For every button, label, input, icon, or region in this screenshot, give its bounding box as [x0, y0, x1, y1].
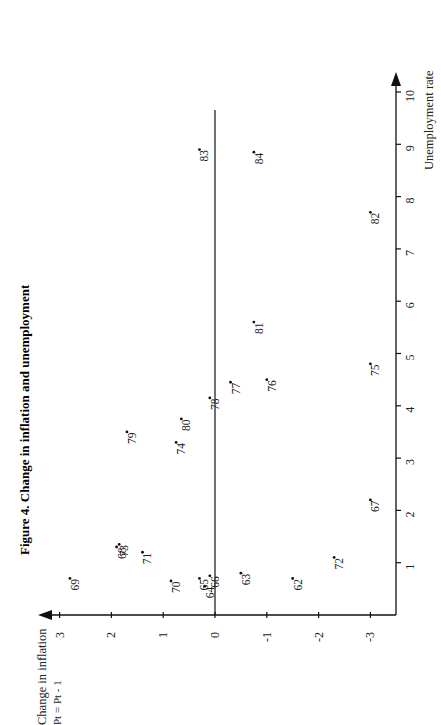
unemployment-tick-label: 5	[403, 355, 417, 361]
unemployment-tick-label: 4	[403, 407, 417, 413]
data-point: 77	[229, 381, 241, 394]
point-label: 67	[369, 500, 381, 512]
point-label: 69	[69, 579, 81, 591]
inflation-tick-label: 2	[104, 632, 118, 638]
point-label: 66	[209, 576, 221, 588]
data-point: 76	[265, 378, 277, 391]
point-label: 73	[118, 545, 130, 557]
point-label: 70	[170, 581, 182, 593]
point-label: 71	[141, 552, 153, 564]
data-point: 62	[291, 577, 303, 590]
point-label: 76	[266, 380, 278, 392]
data-point: 79	[126, 431, 138, 444]
point-label: 63	[240, 573, 252, 585]
point-label: 84	[253, 152, 265, 164]
data-point: 63	[240, 572, 252, 585]
data-point: 71	[141, 551, 153, 564]
point-label: 62	[292, 579, 304, 591]
data-point: 66	[208, 574, 220, 587]
unemployment-tick-label: 3	[403, 459, 417, 465]
data-point: 75	[369, 363, 381, 376]
inflation-tick-label: 3	[53, 632, 67, 638]
point-label: 74	[175, 443, 187, 455]
data-point: 83	[198, 148, 210, 161]
data-point: 67	[369, 499, 381, 512]
unemployment-ticks: 12345678910	[396, 90, 417, 570]
unemployment-tick-label: 7	[403, 250, 417, 256]
inflation-tick-label: -2	[312, 632, 326, 642]
unemployment-tick-label: 6	[403, 302, 417, 308]
unemployment-tick-label: 1	[403, 564, 417, 570]
data-points: 6263646566676869707172737475767778798081…	[69, 148, 382, 598]
y-axis-sublabel: Pt = Pt - 1	[51, 680, 63, 725]
data-point: 70	[170, 580, 182, 593]
unemployment-tick-label: 9	[403, 145, 417, 151]
y-axis-label: Change in inflation	[35, 628, 49, 725]
unemployment-tick-label: 10	[403, 90, 417, 102]
data-point: 78	[208, 397, 220, 410]
data-point: 73	[118, 543, 130, 556]
data-point: 84	[252, 151, 264, 164]
inflation-tick-label: 0	[208, 632, 222, 638]
inflation-tick-label: 1	[156, 632, 170, 638]
point-label: 81	[253, 322, 265, 334]
data-point: 81	[252, 321, 264, 334]
inflation-tick-label: -3	[363, 632, 377, 642]
unemployment-tick-label: 8	[403, 198, 417, 204]
data-point: 82	[369, 211, 381, 224]
data-point: 69	[69, 577, 81, 590]
point-label: 72	[333, 558, 345, 570]
point-label: 79	[126, 432, 138, 444]
point-label: 82	[369, 213, 381, 225]
inflation-axis-arrow-icon	[38, 610, 52, 620]
x-axis-label: Unemployment rate	[422, 70, 436, 170]
figure-title: Figure 4. Change in inflation and unempl…	[17, 284, 32, 555]
point-label: 77	[230, 383, 242, 395]
inflation-tick-label: -1	[260, 632, 274, 642]
scatter-chart: Figure 4. Change in inflation and unempl…	[0, 0, 441, 725]
point-label: 78	[209, 398, 221, 410]
inflation-ticks: 3210-1-2-3	[53, 612, 378, 642]
data-point: 74	[175, 441, 187, 454]
unemployment-axis-arrow-icon	[391, 72, 401, 86]
point-label: 83	[198, 150, 210, 162]
point-label: 80	[180, 419, 192, 431]
data-point: 72	[333, 556, 345, 569]
data-point: 80	[180, 417, 192, 430]
unemployment-tick-label: 2	[403, 511, 417, 517]
point-label: 75	[369, 364, 381, 376]
